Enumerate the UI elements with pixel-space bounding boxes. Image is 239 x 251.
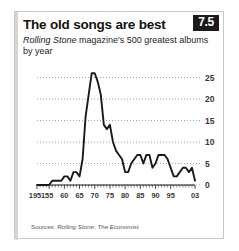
x-axis-tick-label: 75 [106, 191, 114, 200]
chart-card: The old songs are best 7.5 Rolling Stone… [14, 11, 224, 239]
source-name-2: The Economist [97, 223, 138, 230]
y-axis-tick-labels: 0510152025 [205, 73, 215, 190]
y-axis-tick-label: 10 [205, 137, 215, 147]
x-axis-tick-label: 60 [60, 191, 68, 200]
page-title: The old songs are best [23, 17, 166, 32]
x-axis-tick-label: 65 [75, 191, 83, 200]
source-name-1: Rolling Stone [57, 223, 94, 230]
source-note: Sources: Rolling Stone; The Economist [31, 223, 139, 230]
chart-subtitle: Rolling Stone magazine's 500 greatest al… [23, 35, 217, 56]
rank-badge: 7.5 [193, 15, 219, 31]
subtitle-publication: Rolling Stone [23, 35, 77, 45]
x-axis-tick-label: 85 [136, 191, 144, 200]
y-axis-tick-label: 25 [205, 73, 215, 83]
x-axis-tick-label: 80 [121, 191, 129, 200]
y-axis-tick-label: 20 [205, 94, 215, 104]
source-prefix: Sources: [31, 223, 57, 230]
x-axis-tick-label: 55 [45, 191, 53, 200]
data-series-line [37, 73, 195, 185]
x-axis-tick-label: 03 [191, 191, 199, 200]
gridlines [37, 78, 201, 185]
line-chart-svg: 0510152025 195155606570758085909503 [23, 59, 221, 209]
y-axis-tick-label: 0 [205, 180, 210, 190]
accent-bar [15, 12, 18, 240]
x-axis-ticks [37, 185, 195, 189]
y-axis-tick-label: 15 [205, 116, 215, 126]
plot-area: 0510152025 195155606570758085909503 [23, 59, 221, 209]
y-axis-tick-label: 5 [205, 159, 210, 169]
x-axis-tick-label: 95 [167, 191, 175, 200]
x-axis-tick-labels: 195155606570758085909503 [29, 191, 199, 200]
x-axis-tick-label: 70 [91, 191, 99, 200]
x-axis-tick-label: 1951 [29, 191, 45, 200]
x-axis-tick-label: 90 [151, 191, 159, 200]
title-row: The old songs are best 7.5 [23, 17, 219, 35]
